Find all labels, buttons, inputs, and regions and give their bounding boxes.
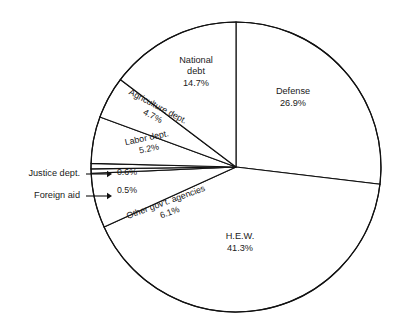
slice-value-justice-dept: 0.6%: [117, 167, 137, 177]
slice-label-line: H.E.W.: [226, 232, 255, 242]
pie-chart-svg: Defense26.9%H.E.W.41.3%Other gov't. agen…: [0, 0, 397, 335]
slice-label-line: National: [179, 55, 213, 65]
callout-label-foreign-aid: Foreign aid: [34, 190, 80, 200]
pie-chart-figure: Defense26.9%H.E.W.41.3%Other gov't. agen…: [0, 0, 397, 335]
slice-label-hew: H.E.W.41.3%: [226, 232, 255, 254]
slice-label-line: Defense: [276, 87, 310, 97]
slice-label-line: 14.7%: [183, 78, 209, 88]
callout-label-justice-dept: Justice dept.: [28, 168, 80, 178]
pie-slice-defense[interactable]: [236, 22, 381, 184]
slice-label-line: 26.9%: [280, 98, 306, 108]
slice-label-defense: Defense26.9%: [276, 87, 310, 109]
slice-value-foreign-aid: 0.5%: [117, 185, 137, 195]
slice-label-line: 41.3%: [227, 243, 253, 253]
slice-label-line: debt: [187, 66, 205, 76]
